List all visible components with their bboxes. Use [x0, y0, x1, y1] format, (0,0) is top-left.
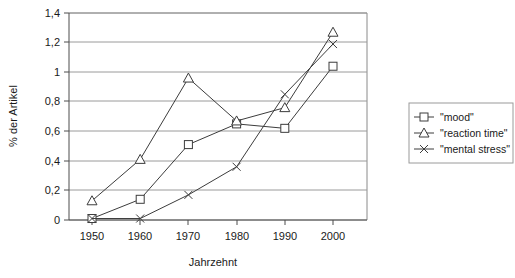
triangle-marker-icon: [280, 103, 290, 112]
cross-marker-icon: [281, 90, 289, 98]
x-axis: [69, 220, 367, 225]
x-tick-label: 1960: [128, 230, 152, 242]
y-tick-label: 1: [54, 66, 60, 78]
triangle-marker-icon: [328, 27, 338, 36]
x-tick-label: 1970: [176, 230, 200, 242]
triangle-marker-icon: [135, 154, 145, 163]
triangle-marker-icon: [183, 73, 193, 82]
legend-item-mood[interactable]: "mood": [414, 111, 474, 123]
series-layer: [87, 27, 338, 222]
series-2: [87, 27, 338, 205]
y-tick-label: 0: [54, 214, 60, 226]
y-tick-label: 1,4: [45, 7, 60, 19]
x-tick-label: 1980: [225, 230, 249, 242]
line-chart: 1,4 1,2 1 0,8 0,6 0,4 0,2 0 % der Artike…: [0, 0, 515, 278]
y-axis: [64, 13, 69, 220]
legend-label: "reaction time": [440, 127, 508, 139]
y-axis-title: % der Artikel: [7, 85, 19, 147]
cross-marker-icon: [233, 163, 241, 171]
series-1: [88, 62, 337, 222]
y-tick-label: 1,2: [45, 36, 60, 48]
x-axis-title: Jahrzehnt: [189, 256, 237, 268]
x-tick-label: 1950: [80, 230, 104, 242]
x-tick-labels: 1950 1960 1970 1980 1990 2000: [80, 230, 345, 242]
square-marker-icon: [281, 124, 289, 132]
y-tick-label: 0,2: [45, 184, 60, 196]
legend-label: "mood": [440, 111, 474, 123]
square-marker-icon: [184, 141, 192, 149]
plot-frame: [69, 13, 367, 220]
square-marker-icon: [420, 113, 428, 121]
cross-marker-icon: [184, 191, 192, 199]
x-tick-label: 1990: [273, 230, 297, 242]
series-line: [92, 32, 333, 201]
y-tick-label: 0,6: [45, 125, 60, 137]
chart-container: 1,4 1,2 1 0,8 0,6 0,4 0,2 0 % der Artike…: [0, 0, 515, 278]
cross-marker-icon: [329, 40, 337, 48]
y-tick-label: 0,4: [45, 155, 60, 167]
chart-legend: "mood" "reaction time" "mental stress": [409, 103, 513, 163]
x-tick-label: 2000: [321, 230, 345, 242]
legend-label: "mental stress": [440, 143, 510, 155]
square-marker-icon: [136, 195, 144, 203]
y-tick-labels: 1,4 1,2 1 0,8 0,6 0,4 0,2 0: [45, 7, 60, 226]
y-tick-label: 0,8: [45, 95, 60, 107]
square-marker-icon: [329, 62, 337, 70]
gridlines: [69, 13, 367, 220]
